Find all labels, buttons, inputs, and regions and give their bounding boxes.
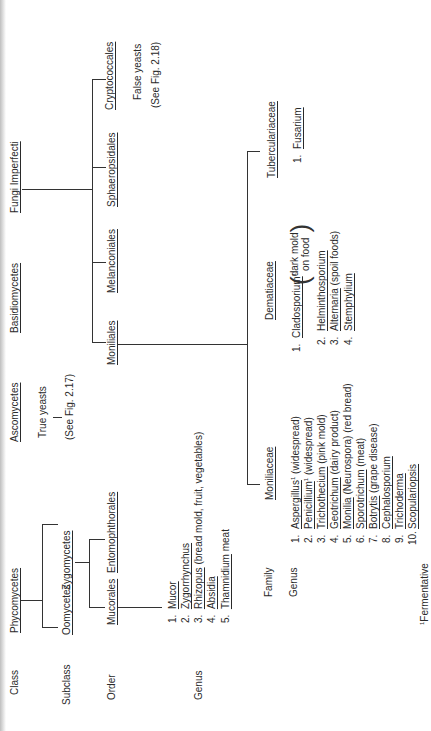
- genus-penicillium: Penicillium: [303, 481, 314, 529]
- list-item: 5.Monilia (Neurospora) (red bread): [342, 383, 354, 543]
- genus-geotrichum: Geotrichum: [329, 477, 340, 529]
- genus-trichothecium: Trichothecium: [316, 467, 327, 529]
- order-moniliales: Moniliales: [106, 321, 118, 365]
- list-item: 4.Stemphylium: [343, 273, 355, 345]
- list-item: 3.Alternaria (spoil foods): [329, 231, 341, 345]
- list-item: 4. Absidia: [206, 576, 218, 623]
- genus-helminthosporium: Helminthosporium: [316, 250, 327, 331]
- family-tuberculariaceae: Tuberculariaceae: [266, 101, 278, 178]
- tree-line: [89, 539, 90, 608]
- genus-zygorrhynchus: Zygorrhynchus: [180, 543, 191, 609]
- row-label-class: Class: [9, 670, 21, 695]
- row-label-genus-right: Genus: [288, 568, 300, 597]
- class-basidiomycetes: Basidiomycetes: [9, 263, 21, 333]
- tree-line: [92, 167, 106, 168]
- genus-botrytis: Botrytis: [368, 496, 379, 529]
- genus-mucor: Mucor: [167, 581, 178, 609]
- genus-stemphylium: Stemphylium: [343, 273, 354, 331]
- see-fig-2-17-note: (See Fig. 2.17): [64, 374, 76, 440]
- genus-cladosporium: Cladosporium: [291, 276, 302, 338]
- list-item: 3. Rhizopus (bread mold, fruit, vegetabl…: [193, 432, 205, 623]
- close-paren-icon: ): [285, 224, 315, 233]
- subclass-zygomycetes: Zygomycetes: [61, 531, 73, 590]
- footnote: 1Fermentative: [419, 563, 431, 625]
- genus-absidia: Absidia: [206, 576, 217, 609]
- genus-trichoderma: Trichoderma: [394, 473, 405, 529]
- order-entomophthorales: Entomophthorales: [106, 492, 118, 573]
- tree-line: [247, 484, 260, 485]
- list-item: 1. Mucor: [167, 581, 179, 623]
- list-item: 2.Helminthosporium: [316, 250, 328, 345]
- genus-alternaria: Alternaria: [329, 288, 340, 331]
- list-item: 2.Penicillium1 (widespread): [303, 417, 315, 543]
- genus-scopulariopsis: Scopulariopsis: [407, 464, 418, 529]
- list-item: 6.Sporotrichum (meat): [355, 438, 367, 543]
- list-item: 3.Trichothecium (pink mold): [316, 414, 328, 543]
- row-label-family: Family: [263, 568, 275, 597]
- tree-line: [92, 342, 106, 343]
- tree-line: [92, 79, 93, 343]
- list-item: 5. Thamnidium meat: [220, 529, 232, 623]
- tree-line: [247, 151, 248, 485]
- true-yeasts-note: True yeasts: [37, 386, 49, 438]
- see-fig-2-18-note: (See Fig. 2.18): [150, 42, 162, 108]
- class-fungi-imperfecti: Fungi Imperfecti: [9, 141, 21, 213]
- genus-aspergillus: Aspergillus: [290, 480, 301, 529]
- fungi-classification-diagram: Class Subclass Order Genus Family Genus …: [0, 0, 431, 731]
- order-mucorales: Mucorales: [106, 579, 118, 625]
- genus-cephalosporium: Cephalosporium: [381, 456, 392, 529]
- list-item: 1.Aspergillus1 (widespread): [290, 416, 302, 543]
- class-ascomycetes: Ascomycetes: [9, 383, 21, 442]
- list-item: 10.Scopulariopsis: [407, 464, 419, 545]
- genus-monilia: Monilia: [342, 497, 353, 529]
- genus-sporotrichum: Sporotrichum: [355, 470, 366, 529]
- tree-line: [75, 562, 90, 563]
- class-phycomycetes: Phycomycetes: [9, 568, 21, 633]
- order-sphaeropsidales: Sphaeropsidales: [106, 133, 118, 208]
- tree-line: [118, 344, 247, 345]
- list-item: 2. Zygorrhynchus: [180, 543, 192, 623]
- row-label-order: Order: [106, 674, 118, 700]
- list-item: 9.Trichoderma: [394, 473, 406, 543]
- tree-line: [89, 607, 105, 608]
- tree-line: [42, 524, 43, 628]
- genus-rhizopus: Rhizopus: [193, 567, 204, 609]
- list-item: 8.Cephalosporium: [381, 456, 393, 543]
- family-moniliaceae: Moniliaceae: [264, 447, 276, 500]
- subclass-oomycetes: Oomycetes: [61, 584, 73, 635]
- family-dematiaceae: Dematiaceae: [264, 261, 276, 320]
- tree-line: [21, 600, 42, 601]
- tree-line: [42, 627, 58, 628]
- tree-line: [118, 607, 162, 608]
- connector-line: [53, 417, 62, 418]
- list-item: 4.Geotrichum (dairy product): [329, 410, 341, 543]
- genus-thamnidium: Thamnidium: [220, 554, 231, 609]
- tree-line: [89, 539, 105, 540]
- tree-line: [22, 189, 92, 190]
- tree-line: [92, 262, 106, 263]
- list-item: 1.Fusarium: [292, 107, 304, 163]
- list-item: 7.Botrytis (grape disease): [368, 423, 380, 543]
- tree-line: [247, 151, 260, 152]
- tree-line: [42, 524, 58, 525]
- order-cryptococcales: Cryptococcales: [104, 42, 116, 110]
- false-yeasts-note: False yeasts: [132, 44, 144, 100]
- row-label-subclass: Subclass: [61, 664, 73, 705]
- row-label-genus-left: Genus: [193, 671, 205, 700]
- order-melanconiales: Melanconiales: [106, 229, 118, 293]
- cladosporium-note: (dark moldon food): [289, 224, 311, 285]
- open-paren-icon: (: [285, 276, 315, 285]
- tree-line: [92, 79, 106, 80]
- genus-fusarium: Fusarium: [292, 107, 303, 149]
